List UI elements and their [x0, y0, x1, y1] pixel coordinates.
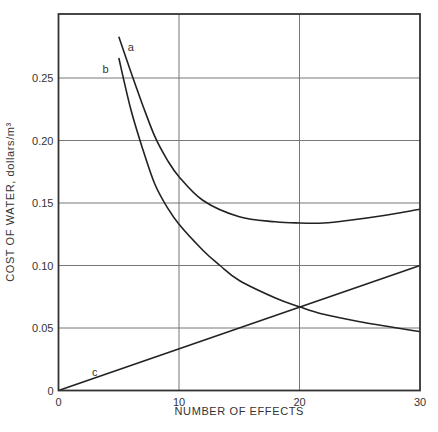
data-curves	[59, 37, 421, 391]
y-tick-label: 0.05	[32, 322, 53, 334]
y-tick-labels: 00.050.100.150.200.25	[32, 72, 53, 397]
y-tick-label: 0.25	[32, 72, 53, 84]
curve-b	[119, 58, 420, 332]
curve-label-b: b	[102, 63, 108, 75]
curve-label-c: c	[92, 366, 98, 378]
plot-frame	[59, 14, 421, 391]
y-tick-label: 0	[47, 385, 53, 397]
cost-vs-effects-chart: 00.050.100.150.200.25 0102030 abc NUMBER…	[0, 0, 438, 432]
y-tick-label: 0.15	[32, 197, 53, 209]
y-axis-title: COST OF WATER, dollars/m³	[4, 122, 16, 282]
x-axis-title: NUMBER OF EFFECTS	[175, 405, 304, 417]
grid-lines	[59, 14, 421, 391]
curve-a	[119, 37, 420, 223]
y-tick-label: 0.10	[32, 260, 53, 272]
x-tick-label: 30	[414, 396, 426, 408]
x-tick-label: 0	[55, 396, 61, 408]
curve-label-a: a	[128, 41, 135, 53]
curve-labels: abc	[92, 41, 135, 378]
y-tick-label: 0.20	[32, 135, 53, 147]
